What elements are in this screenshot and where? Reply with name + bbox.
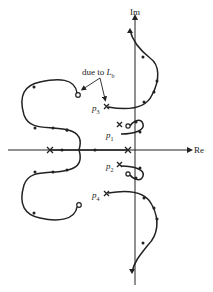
pole-label-p2: p2 <box>106 162 114 173</box>
locus-branch-p4 <box>108 191 157 272</box>
locus-branch-p3 <box>108 30 158 109</box>
pole-label-p1: p1 <box>106 131 114 142</box>
imag-axis-label: Im <box>130 8 140 17</box>
pole-label-p4: p4 <box>92 191 100 202</box>
real-axis-label: Re <box>194 146 204 155</box>
root-locus-plot <box>0 0 213 292</box>
locus-branch-left-lower <box>22 150 80 220</box>
annotation-label: due to Lb <box>82 68 115 79</box>
locus-branch-left-upper <box>22 80 80 150</box>
pole-label-p3: p3 <box>92 104 100 115</box>
